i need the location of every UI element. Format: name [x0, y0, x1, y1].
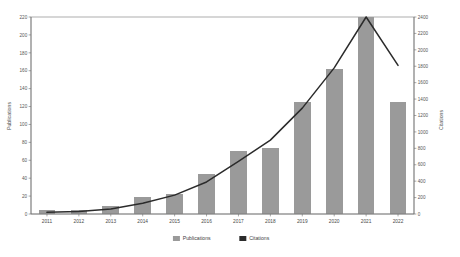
legend-label: Citations — [249, 235, 270, 241]
left-axis-tick-label: 220 — [20, 15, 28, 20]
left-axis-tick-label: 180 — [20, 51, 28, 56]
x-axis-tick-label: 2012 — [74, 219, 85, 224]
right-axis-title: Citations — [438, 110, 444, 131]
x-axis-tick-label: 2015 — [169, 219, 180, 224]
right-axis-tick-label: 2000 — [418, 48, 429, 53]
x-axis-tick-label: 2019 — [297, 219, 308, 224]
publications-bar — [262, 148, 279, 214]
left-axis-tick-label: 200 — [20, 33, 28, 38]
x-axis-tick-label: 2020 — [329, 219, 340, 224]
right-axis-tick-label: 1600 — [418, 80, 429, 85]
right-axis-tick-label: 1000 — [418, 130, 429, 135]
left-axis-tick-label: 120 — [20, 104, 28, 109]
chart-container: 020406080100120140160180200220 020040060… — [0, 0, 460, 257]
x-axis-tick-label: 2017 — [233, 219, 244, 224]
x-axis-tick-label: 2018 — [265, 219, 276, 224]
publications-bar — [358, 17, 375, 214]
right-axis-tick-label: 1200 — [418, 113, 429, 118]
left-axis-tick-label: 20 — [22, 194, 28, 199]
dual-axis-publications-citations-chart: 020406080100120140160180200220 020040060… — [0, 0, 460, 257]
publications-bar — [134, 197, 151, 214]
publications-bar — [294, 102, 311, 214]
x-axis-tick-label: 2011 — [42, 219, 53, 224]
left-axis-tick-label: 160 — [20, 68, 28, 73]
publications-bar — [326, 69, 343, 214]
x-axis-tick-label: 2014 — [137, 219, 148, 224]
right-axis-tick-label: 2200 — [418, 31, 429, 36]
right-axis-tick-label: 2400 — [418, 15, 429, 20]
right-axis-tick-label: 400 — [418, 179, 426, 184]
right-axis-tick-label: 600 — [418, 162, 426, 167]
x-axis-tick-label: 2016 — [201, 219, 212, 224]
right-axis-tick-label: 800 — [418, 146, 426, 151]
x-axis-tick-label: 2013 — [105, 219, 116, 224]
legend-label: Publications — [183, 235, 211, 241]
left-axis-tick-label: 60 — [22, 158, 28, 163]
left-axis-tick-label: 40 — [22, 176, 28, 181]
left-axis-tick-label: 0 — [25, 212, 28, 217]
left-axis-title: Publications — [6, 102, 12, 130]
x-axis-tick-label: 2021 — [361, 219, 372, 224]
right-axis-tick-label: 1800 — [418, 64, 429, 69]
publications-bar — [198, 174, 215, 214]
left-axis-tick-label: 80 — [22, 140, 28, 145]
publications-bar — [390, 102, 407, 214]
legend-swatch — [239, 236, 246, 241]
legend-swatch — [173, 236, 180, 241]
left-axis-tick-label: 140 — [20, 86, 28, 91]
right-axis-tick-label: 1400 — [418, 97, 429, 102]
left-axis-tick-label: 100 — [20, 122, 28, 127]
right-axis-tick-label: 0 — [418, 212, 421, 217]
x-axis-tick-label: 2022 — [393, 219, 404, 224]
right-axis-tick-label: 200 — [418, 195, 426, 200]
